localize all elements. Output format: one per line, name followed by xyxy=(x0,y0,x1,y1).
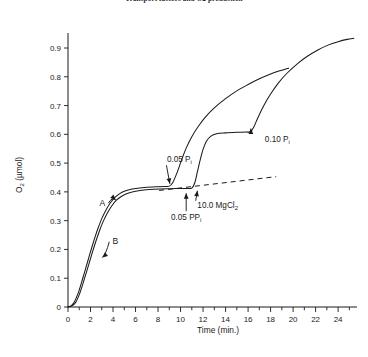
x-axis-ticks: 024681012141618202224 xyxy=(66,307,350,324)
x-tick-label: 10 xyxy=(176,315,185,324)
y-tick-label: 0.9 xyxy=(50,44,62,53)
y-tick-label: 0 xyxy=(57,303,62,312)
x-tick-label: 18 xyxy=(266,315,275,324)
annotation-label-pi-010: 0.10 Pi xyxy=(265,135,290,145)
x-tick-label: 16 xyxy=(244,315,253,324)
y-tick-label: 0.3 xyxy=(50,217,62,226)
x-tick-label: 0 xyxy=(66,315,71,324)
y-axis-ticks: 00.10.20.30.40.50.60.70.80.9 xyxy=(50,44,68,312)
x-tick-label: 6 xyxy=(133,315,138,324)
x-tick-label: 2 xyxy=(88,315,93,324)
y-tick-label: 0.8 xyxy=(50,73,62,82)
x-tick-label: 14 xyxy=(221,315,230,324)
y-axis-title: O2 (µmol) xyxy=(14,157,25,193)
y-tick-label: 0.6 xyxy=(50,130,62,139)
series-curve-b xyxy=(68,38,354,307)
x-tick-label: 4 xyxy=(111,315,116,324)
x-axis-title: Time (min.) xyxy=(197,325,239,335)
annotation-label-mgcl2-100: 10.0 MgCl2 xyxy=(197,201,238,211)
y-tick-label: 0.4 xyxy=(50,188,62,197)
annotation-arrowhead xyxy=(102,252,108,257)
annotation-group: 0.05 Pi0.05 PPi10.0 MgCl20.10 Pi xyxy=(166,129,289,224)
oxygen-production-figure: Transport factors and O2 production 00.1… xyxy=(0,0,368,357)
annotation-arrowhead xyxy=(184,193,189,198)
y-tick-label: 0.2 xyxy=(50,245,62,254)
chart-plot-area: 00.10.20.30.40.50.60.70.80.9 02468101214… xyxy=(0,0,368,357)
annotation-arrowhead xyxy=(167,178,172,184)
x-tick-label: 24 xyxy=(334,315,343,324)
y-tick-label: 0.5 xyxy=(50,159,62,168)
series-curve-a xyxy=(68,68,289,307)
y-tick-label: 0.7 xyxy=(50,102,62,111)
x-tick-label: 8 xyxy=(156,315,161,324)
annotation-label-ppi-005: 0.05 PPi xyxy=(171,213,201,223)
annotation-label-pi-005: 0.05 Pi xyxy=(167,155,192,165)
annotation-arrowhead xyxy=(194,191,199,197)
curve-label-a: A xyxy=(99,198,105,208)
x-tick-label: 20 xyxy=(289,315,298,324)
x-tick-label: 22 xyxy=(311,315,320,324)
curve-label-b: B xyxy=(112,236,118,246)
y-tick-label: 0.1 xyxy=(50,274,62,283)
x-tick-label: 12 xyxy=(199,315,208,324)
